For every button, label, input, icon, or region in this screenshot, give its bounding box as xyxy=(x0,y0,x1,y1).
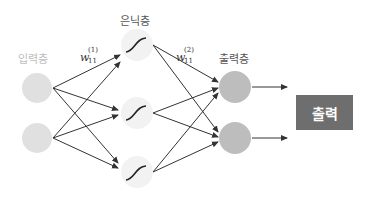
weight-label-layer2: w (2) 11 xyxy=(176,51,185,64)
output-node-1 xyxy=(219,71,251,103)
result-output-label: 출력 xyxy=(312,103,338,123)
weight-superscript: (1) xyxy=(88,46,98,54)
hidden-node-2 xyxy=(121,97,153,129)
input-layer-label: 입력층 xyxy=(18,50,48,66)
input-node-2 xyxy=(22,123,52,153)
weight-subscript: 11 xyxy=(88,57,97,65)
output-arrows xyxy=(252,87,287,138)
output-node-2 xyxy=(219,122,251,154)
hidden-layer-label: 은닉층 xyxy=(120,12,150,28)
output-layer-label: 출력층 xyxy=(219,50,249,66)
hidden-node-1 xyxy=(121,29,153,61)
hidden-node-3 xyxy=(121,156,153,188)
weight-label-layer1: w (1) 11 xyxy=(80,51,89,64)
result-output-box: 출력 xyxy=(296,95,353,130)
input-node-1 xyxy=(22,73,52,103)
weight-subscript: 11 xyxy=(184,57,193,65)
input-hidden-edges xyxy=(53,55,120,168)
weight-superscript: (2) xyxy=(184,46,194,54)
